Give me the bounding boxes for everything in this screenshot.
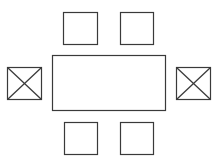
diagram-svg — [0, 0, 219, 165]
floor-plan-diagram — [0, 0, 219, 165]
chair-bottom-left — [65, 123, 98, 155]
chair-left-crossed — [8, 68, 42, 100]
table — [53, 56, 166, 111]
chair-top-right — [121, 13, 154, 45]
chair-top-left — [64, 13, 98, 45]
chair-right-crossed — [177, 68, 211, 100]
chair-bottom-right — [121, 123, 154, 155]
